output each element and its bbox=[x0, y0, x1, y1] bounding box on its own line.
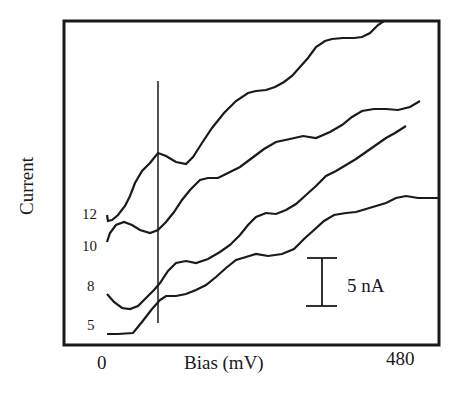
scale-bar bbox=[306, 258, 337, 306]
curve-10 bbox=[107, 101, 420, 242]
y-axis-label: Current bbox=[16, 157, 38, 215]
x-axis-label: Bias (mV) bbox=[184, 352, 264, 374]
curve-label-5: 5 bbox=[87, 317, 95, 334]
curve-label-8: 8 bbox=[87, 278, 95, 295]
curve-12 bbox=[107, 21, 384, 221]
scale-bar-label: 5 nA bbox=[347, 275, 384, 297]
x-tick-0: 0 bbox=[97, 352, 107, 374]
chart-plot bbox=[0, 0, 462, 397]
curve-5 bbox=[107, 196, 438, 334]
x-tick-480: 480 bbox=[386, 348, 415, 370]
curve-label-10: 10 bbox=[82, 238, 97, 255]
curve-label-12: 12 bbox=[82, 206, 97, 223]
